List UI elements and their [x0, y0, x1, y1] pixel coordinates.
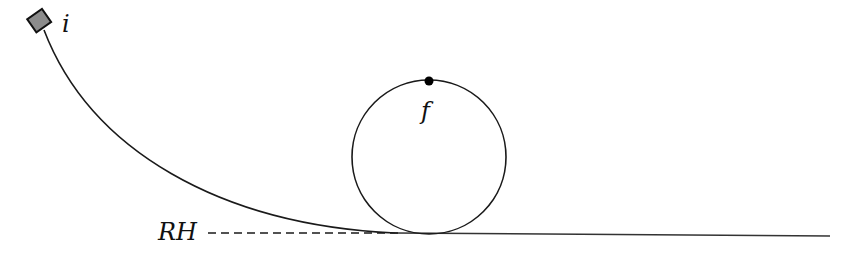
- diagram-drawing: [0, 0, 847, 254]
- label-reference-height: RH: [158, 220, 197, 244]
- label-final: f: [421, 99, 430, 123]
- loop-track-diagram: i f RH: [0, 0, 847, 254]
- final-point-dot: [425, 77, 434, 86]
- ramp-curve: [44, 30, 395, 233]
- block: [27, 9, 51, 32]
- ground-line: [395, 233, 830, 236]
- label-initial: i: [62, 12, 70, 36]
